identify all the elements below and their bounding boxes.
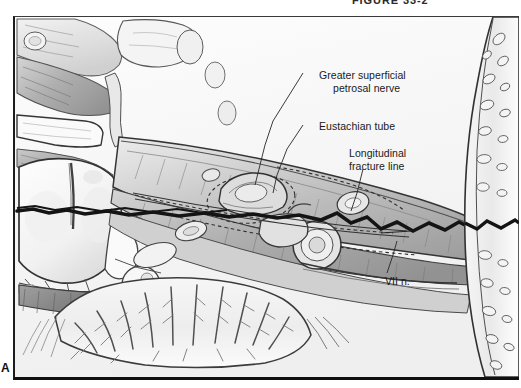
panel-letter: A xyxy=(1,361,10,375)
annotation-facial-nerve: VII n. xyxy=(385,275,410,288)
annotation-gspn-line2: petrosal nerve xyxy=(319,82,400,95)
annotation-vii-label: VII n. xyxy=(385,275,410,287)
annotation-fracture-line2: fracture line xyxy=(349,160,405,172)
annotation-eustachian-tube: Eustachian tube xyxy=(319,120,395,133)
annotation-fracture-line1: Longitudinal xyxy=(349,147,406,159)
annotation-gspn: Greater superficial petrosal nerve xyxy=(319,69,406,94)
annotation-fracture-line: Longitudinal fracture line xyxy=(349,147,406,172)
annotation-gspn-line1: Greater superficial xyxy=(319,69,406,81)
illustration-canvas xyxy=(15,17,519,377)
annotation-eustachian-label: Eustachian tube xyxy=(319,120,395,132)
figure-page: FIGURE 33-2 A xyxy=(0,0,521,388)
figure-header: FIGURE 33-2 xyxy=(352,0,492,4)
anatomical-illustration: Greater superficial petrosal nerve Eusta… xyxy=(13,16,519,380)
